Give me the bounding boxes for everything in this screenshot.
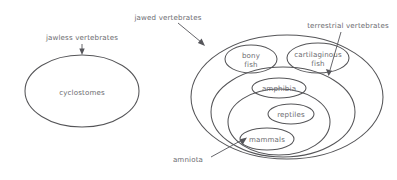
arrow-head-jawless-vertebrates [79,49,84,56]
label-bony-fish-line2: fish [244,60,257,69]
label-cartilaginous-fish-line2: fish [311,59,324,68]
ellipse-jawed-vertebrates [191,35,383,159]
annotation-label-jawed-vertebrates: jawed vertebrates [133,13,201,22]
diagram-canvas: cyclostomes bony fish cartilaginous fish… [0,0,397,180]
annotation-label-jawless-vertebrates: jawless vertebrates [45,33,118,42]
annotation-label-terrestrial-vertebrates: terrestrial vertebrates [307,21,389,30]
label-bony-fish-line1: bony [242,51,260,60]
annotation-jawed-vertebrates: jawed vertebrates [133,13,205,46]
leader-line-amniota [211,140,242,157]
label-reptiles: reptiles [277,110,305,119]
annotation-label-amniota: amniota [173,155,203,164]
euler-diagram: cyclostomes bony fish cartilaginous fish… [0,0,397,180]
annotation-jawless-vertebrates: jawless vertebrates [45,33,118,55]
leader-line-jawed-vertebrates [178,23,201,42]
label-cyclostomes: cyclostomes [59,88,105,97]
label-amphibia: amphibia [262,84,296,93]
annotation-amniota: amniota [173,138,247,164]
ellipse-amniota [228,89,330,155]
label-mammals: mammals [249,135,285,144]
arrow-head-jawed-vertebrates [198,39,205,46]
